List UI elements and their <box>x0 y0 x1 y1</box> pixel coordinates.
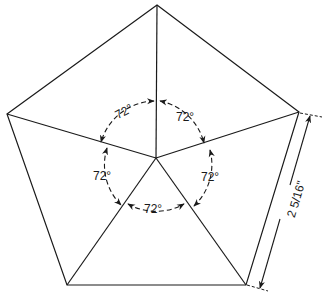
angle-label-top-right: 72° <box>176 110 194 124</box>
dimension-label: 2 5/16" <box>284 179 308 219</box>
pentagon-diagram: 72° 72° 72° 72° 72° 2 5/16" <box>0 0 323 293</box>
extension-line-bottom <box>247 285 268 291</box>
angle-label-bottom: 72° <box>144 202 162 216</box>
angle-label-top-left: 72° <box>113 101 136 122</box>
pentagon-outline <box>7 5 299 285</box>
angle-label-left: 72° <box>93 169 111 183</box>
extension-line-top <box>300 113 322 117</box>
dimension-line-upper <box>290 116 310 185</box>
radial-lines <box>7 5 299 285</box>
angle-label-right: 72° <box>201 170 219 184</box>
